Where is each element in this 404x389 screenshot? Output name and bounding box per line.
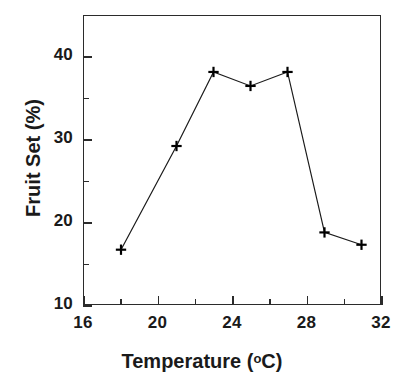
x-tick-20 [158,296,160,305]
y-tick-10 [83,305,92,307]
x-tick-label-24: 24 [202,313,262,333]
data-point-marker [116,245,126,255]
x-tick-label-20: 20 [128,313,188,333]
data-point-marker [319,227,329,237]
y-axis-title: Fruit Set (%) [22,99,44,217]
x-tick-24 [232,296,234,305]
x-tick-26 [269,299,271,305]
y-tick-20 [83,222,92,224]
y-tick-30 [83,139,92,141]
x-tick-18 [120,299,122,305]
x-tick-label-28: 28 [277,313,337,333]
data-point-marker [245,81,255,91]
x-tick-28 [307,296,309,305]
data-point-marker [171,141,181,151]
series-line-0 [121,72,362,250]
x-tick-30 [344,299,346,305]
data-point-marker [282,67,292,77]
x-tick-32 [381,296,383,305]
chart-figure: 1620242832 10203040 Temperature (oC) Fru… [0,0,404,389]
y-axis-title-wrapper: Fruit Set (%) [22,13,48,303]
x-axis-title-tail: C) [261,350,282,372]
plot-area [83,15,381,305]
y-tick-35 [83,98,89,100]
x-tick-label-16: 16 [53,313,113,333]
data-series-canvas [84,16,380,304]
x-tick-22 [195,299,197,305]
y-tick-25 [83,181,89,183]
y-tick-40 [83,56,92,58]
x-axis-title-text: Temperature ( [122,350,254,372]
x-tick-label-32: 32 [351,313,404,333]
y-tick-15 [83,264,89,266]
data-point-marker [356,240,366,250]
x-tick-16 [83,296,85,305]
x-axis-title: Temperature (oC) [0,350,404,373]
data-point-marker [208,67,218,77]
